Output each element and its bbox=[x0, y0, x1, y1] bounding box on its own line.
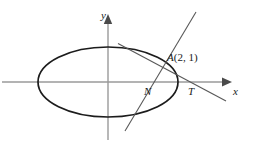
point-n-label: N bbox=[144, 86, 151, 97]
y-axis-label: y bbox=[101, 10, 106, 21]
ellipse-tangent-normal-figure: y x A(2, 1) N T bbox=[0, 0, 255, 164]
point-a-coords: (2, 1) bbox=[174, 51, 198, 63]
geometry-diagram bbox=[0, 0, 255, 164]
normal-line bbox=[125, 12, 196, 131]
point-t-label: T bbox=[188, 86, 194, 97]
point-a-name: A bbox=[167, 51, 174, 63]
x-axis-arrowhead bbox=[222, 78, 232, 87]
x-axis-label: x bbox=[233, 86, 238, 97]
point-a-label: A(2, 1) bbox=[167, 52, 198, 63]
